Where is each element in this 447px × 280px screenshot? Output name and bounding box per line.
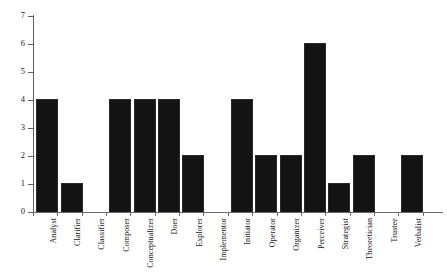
x-tick — [374, 212, 375, 216]
bar-organizer — [280, 155, 302, 212]
y-tick-label: 2 — [21, 150, 25, 161]
bar-explorer — [182, 155, 204, 212]
x-axis-label-organizer: Organizer — [292, 218, 301, 251]
x-axis-label-verbalist: Verbalist — [414, 218, 423, 247]
x-axis-label-explorer: Explorer — [195, 218, 204, 247]
bar-conceptualizer — [134, 99, 156, 212]
x-axis-label-operator: Operator — [268, 218, 277, 247]
bar-composer — [109, 99, 131, 212]
x-tick — [33, 212, 34, 216]
y-tick-label: 7 — [21, 10, 25, 21]
x-axis-label-conceptualizer: Conceptualizer — [146, 218, 155, 268]
x-tick — [252, 212, 253, 216]
x-axis-label-implementor: Implementor — [219, 218, 228, 260]
x-tick — [106, 212, 107, 216]
x-axis-label-classifier: Classifier — [97, 218, 106, 250]
x-axis-label-trustee: Trustee — [390, 218, 399, 242]
y-tick-label: 6 — [21, 38, 25, 49]
bar-perceiver — [304, 43, 326, 212]
bar-initiator — [231, 99, 253, 212]
x-axis-label-perceiver: Perceiver — [317, 218, 326, 249]
y-tick-label: 4 — [21, 94, 25, 105]
x-tick — [179, 212, 180, 216]
x-tick — [203, 212, 204, 216]
y-tick-label: 3 — [21, 122, 25, 133]
bar-doer — [158, 99, 180, 212]
y-tick-label: 1 — [21, 178, 25, 189]
x-axis-label-strategist: Strategist — [341, 218, 350, 249]
x-axis-label-initiator: Initiator — [243, 218, 252, 245]
x-tick — [228, 212, 229, 216]
y-tick-label: 5 — [21, 66, 25, 77]
bar-chart: 01234567 AnalystClarifierClassifierCompo… — [0, 0, 447, 280]
x-axis-label-clarifier: Clarifier — [73, 218, 82, 246]
bar-strategist — [328, 183, 350, 212]
x-axis-label-analyst: Analyst — [49, 218, 58, 244]
x-tick — [82, 212, 83, 216]
x-tick — [350, 212, 351, 216]
x-tick — [325, 212, 326, 216]
bar-clarifier — [61, 183, 83, 212]
x-tick — [155, 212, 156, 216]
bar-analyst — [36, 99, 58, 212]
bar-verbalist — [401, 155, 423, 212]
x-tick — [130, 212, 131, 216]
x-tick — [423, 212, 424, 216]
bars-layer — [33, 14, 445, 212]
x-tick — [301, 212, 302, 216]
x-axis-label-theoretician: Theoretician — [365, 218, 374, 260]
y-tick-label: 0 — [21, 206, 25, 217]
bar-operator — [255, 155, 277, 212]
x-tick — [398, 212, 399, 216]
x-axis-label-doer: Doer — [170, 218, 179, 234]
x-tick — [57, 212, 58, 216]
x-axis-label-composer: Composer — [122, 218, 131, 252]
bar-theoretician — [353, 155, 375, 212]
x-axis-line — [33, 212, 443, 213]
x-tick — [277, 212, 278, 216]
